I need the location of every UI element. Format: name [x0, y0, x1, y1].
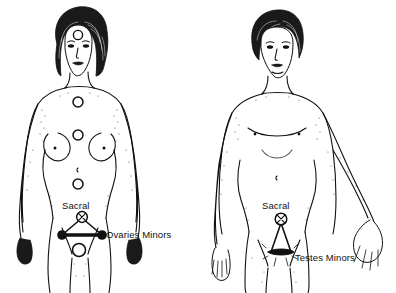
chakra-circle-lower: [73, 179, 83, 189]
brow-chakra-circle: [73, 30, 82, 39]
chakra-circle-upper: [73, 97, 83, 107]
male-sacral-label: Sacral: [262, 200, 290, 211]
female-hand-left: [17, 238, 32, 264]
male-nipple-right: [298, 133, 301, 136]
ovary-node-left: [57, 230, 67, 240]
chakra-circle-root: [73, 244, 86, 257]
female-hand-right: [127, 238, 142, 264]
female-nipple-right: [103, 147, 106, 150]
male-nipple-left: [254, 133, 257, 136]
chakra-circle-middle: [73, 130, 83, 140]
female-sacral-label: Sacral: [62, 200, 90, 211]
illustration-canvas: Sacral Ovaries Minors Sacral Testes Mino…: [0, 0, 396, 293]
male-hand-left: [212, 248, 230, 280]
female-nipple-left: [54, 147, 57, 150]
male-minors-label: Testes Minors: [295, 252, 355, 263]
anatomy-illustration: Sacral Ovaries Minors Sacral Testes Mino…: [0, 0, 396, 293]
female-minors-label: Ovaries Minors: [106, 229, 171, 240]
female-mouth: [73, 62, 84, 65]
male-mouth: [272, 64, 283, 67]
